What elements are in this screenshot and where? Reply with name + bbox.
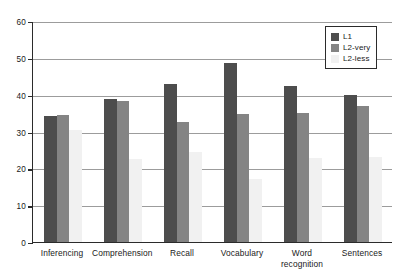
legend-swatch-icon [331,44,339,52]
y-tick-label: 10 [16,202,26,211]
y-tick-label: 30 [16,128,26,137]
bar-chart: 0102030405060 InferencingComprehensionRe… [0,0,404,279]
bar [164,84,177,242]
legend-item: L2-very [331,42,370,53]
y-tick-label: 50 [16,54,26,63]
bar [309,158,322,242]
x-tick-label: Sentences [332,248,392,259]
legend-swatch-icon [331,55,339,63]
bar [237,114,250,242]
chart-legend: L1L2-veryL2-less [325,26,377,69]
bar [104,99,117,242]
bar [224,63,237,242]
bar-group [104,22,142,242]
x-tick-label: Comprehension [92,248,152,259]
y-tick-label: 0 [21,239,26,248]
x-tick-label: Vocabulary [212,248,272,259]
bar [44,116,57,242]
y-tick-label: 40 [16,91,26,100]
legend-item: L1 [331,31,370,42]
bar [57,115,70,242]
y-tick-mark [28,243,33,244]
legend-label: L2-very [343,43,370,52]
bar [357,106,370,242]
bar-group [284,22,322,242]
bar [69,130,82,242]
bar [297,113,310,242]
bar [344,95,357,242]
bar [369,157,382,242]
legend-label: L1 [343,32,352,41]
legend-swatch-icon [331,33,339,41]
x-tick-label: Wordrecognition [272,248,332,269]
bar [249,179,262,242]
legend-label: L2-less [343,54,370,63]
bar-group [164,22,202,242]
y-tick-label: 60 [16,18,26,27]
y-tick-label: 20 [16,165,26,174]
bar [189,152,202,242]
bar [284,86,297,242]
bar [129,159,142,242]
bar-group [224,22,262,242]
x-tick-label: Inferencing [32,248,92,259]
x-tick-label: Recall [152,248,212,259]
legend-item: L2-less [331,53,370,64]
bar [177,122,190,242]
bar [117,101,130,242]
bar-group [44,22,82,242]
